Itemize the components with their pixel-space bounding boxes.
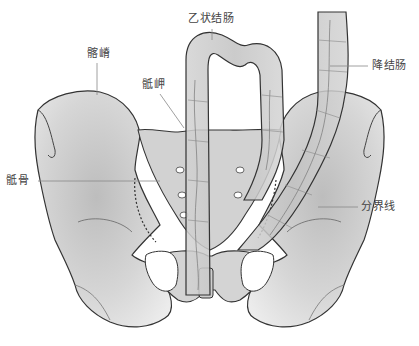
label-descending-colon: 降结肠 [372,60,407,72]
pelvis-illustration [0,0,419,346]
label-sacral-promontory: 骶岬 [142,79,165,91]
label-linea-terminalis: 分界线 [361,201,396,213]
label-sigmoid-colon: 乙状结肠 [188,13,234,25]
label-sacrum: 骶骨 [6,175,29,187]
left-hip-bone [35,91,172,327]
label-iliac-crest: 髂嵴 [87,48,110,60]
